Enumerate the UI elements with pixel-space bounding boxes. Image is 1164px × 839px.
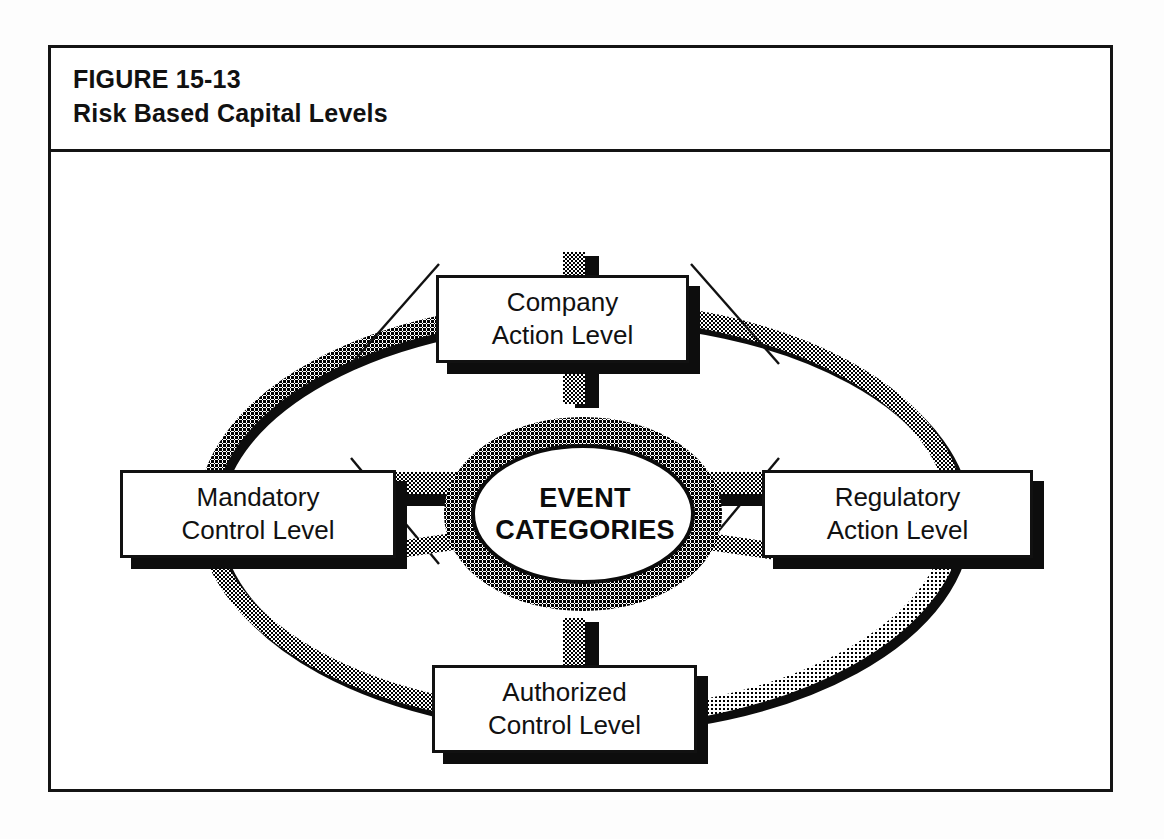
- company-label-line1: Company: [507, 286, 618, 319]
- node-box-regulatory[interactable]: Regulatory Action Level: [762, 470, 1033, 558]
- mandatory-label-line2: Control Level: [181, 514, 334, 547]
- center-ellipse-group: [459, 432, 713, 602]
- center-ellipse-inner: [473, 446, 693, 582]
- figure-title-band: FIGURE 15-13 Risk Based Capital Levels: [51, 48, 1110, 152]
- figure-title: Risk Based Capital Levels: [73, 96, 1110, 130]
- authorized-label-line1: Authorized: [502, 676, 626, 709]
- figure-number-label: FIGURE 15-13: [73, 62, 1110, 96]
- mandatory-label-line1: Mandatory: [197, 481, 320, 514]
- figure-frame: FIGURE 15-13 Risk Based Capital Levels: [48, 45, 1113, 792]
- company-label-line2: Action Level: [492, 319, 634, 352]
- node-box-company[interactable]: Company Action Level: [436, 275, 689, 363]
- node-box-mandatory[interactable]: Mandatory Control Level: [120, 470, 396, 558]
- diagram-canvas: Company Action Level Mandatory Control L…: [51, 152, 1110, 789]
- regulatory-label-line1: Regulatory: [835, 481, 961, 514]
- authorized-label-line2: Control Level: [488, 709, 641, 742]
- node-box-authorized[interactable]: Authorized Control Level: [432, 665, 697, 753]
- regulatory-label-line2: Action Level: [827, 514, 969, 547]
